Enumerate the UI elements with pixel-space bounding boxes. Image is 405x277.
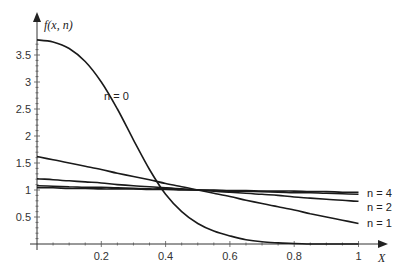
curve-label-n2: n = 2 [367, 201, 392, 213]
y-tick-label: 2 [25, 130, 31, 142]
axes [30, 12, 388, 250]
x-axis-title: X [377, 251, 386, 265]
curve-n4 [37, 188, 359, 192]
y-tick-label: 3.5 [16, 49, 31, 61]
x-tick-label: 0.2 [94, 250, 109, 262]
curve-label-n4: n = 4 [367, 187, 392, 199]
y-tick-label: 0.5 [16, 211, 31, 223]
y-tick-label: 2.5 [16, 103, 31, 115]
chart-plot: 0.20.40.60.810.511.522.533.5 f(x, n) X n… [0, 0, 405, 277]
y-axis-title: f(x, n) [44, 18, 73, 32]
x-axis-arrow-icon [378, 240, 388, 248]
curve-label-n0: n = 0 [104, 90, 129, 102]
curves [37, 40, 359, 244]
y-axis-arrow-icon [33, 12, 41, 22]
y-tick-label: 1 [25, 184, 31, 196]
curve-label-n1: n = 1 [367, 217, 392, 229]
y-tick-label: 1.5 [16, 157, 31, 169]
x-tick-label: 0.8 [287, 250, 302, 262]
x-tick-label: 1 [355, 250, 361, 262]
x-tick-label: 0.4 [158, 250, 173, 262]
x-tick-label: 0.6 [222, 250, 237, 262]
ticks [34, 44, 359, 247]
y-tick-label: 3 [25, 76, 31, 88]
tick-labels: 0.20.40.60.810.511.522.533.5 [16, 49, 362, 262]
